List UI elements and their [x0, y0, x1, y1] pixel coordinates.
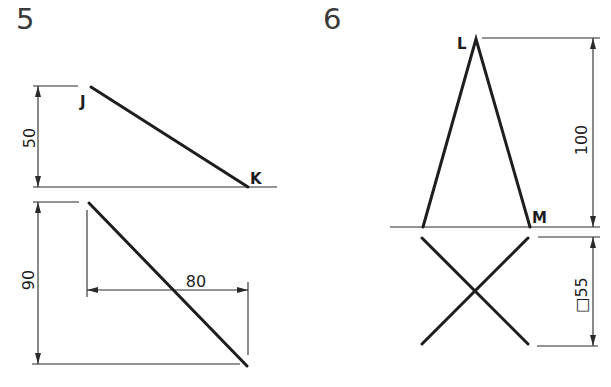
figure-5-number: 5 — [16, 2, 34, 36]
arrowhead-down-icon — [590, 335, 596, 346]
arrowhead-up-icon — [35, 86, 41, 97]
arrowhead-down-icon — [35, 353, 41, 364]
dimension-label-square-55: □55 — [572, 277, 591, 312]
line-jk-front — [91, 87, 248, 187]
arrowhead-down-icon — [590, 216, 596, 227]
arrowhead-up-icon — [35, 202, 41, 213]
figure-6: 6 100 L M □55 — [323, 2, 600, 346]
arrowhead-right-icon — [237, 287, 248, 293]
technical-drawing: 5 50 J K 90 80 — [0, 0, 611, 387]
figure-5-front-view: 50 J K — [20, 86, 277, 188]
point-label-j: J — [79, 93, 86, 111]
dimension-label-50: 50 — [20, 128, 39, 148]
dimension-label-90: 90 — [19, 270, 38, 290]
arrowhead-down-icon — [35, 176, 41, 187]
figure-5: 5 50 J K 90 80 — [16, 2, 277, 366]
line-jk-top — [89, 203, 247, 366]
figure-6-top-view: □55 — [422, 237, 600, 346]
arrowhead-up-icon — [590, 38, 596, 49]
figure-6-number: 6 — [323, 2, 341, 36]
arrowhead-up-icon — [590, 237, 596, 248]
dimension-label-100: 100 — [572, 125, 591, 156]
dimension-label-80: 80 — [186, 272, 206, 291]
triangle-lm-front — [423, 39, 530, 227]
figure-5-top-view: 90 80 — [19, 202, 248, 366]
point-label-k: K — [250, 170, 263, 188]
point-label-m: M — [532, 209, 547, 227]
figure-6-front-view: 100 L M — [390, 35, 600, 227]
point-label-l: L — [457, 35, 467, 53]
arrowhead-left-icon — [87, 287, 98, 293]
